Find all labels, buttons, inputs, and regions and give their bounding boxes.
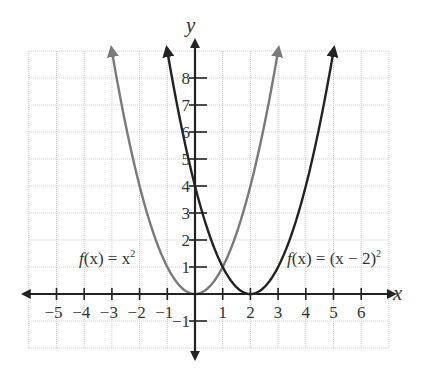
y-axis-label: y: [184, 13, 196, 37]
y-tick-label: 7: [182, 96, 191, 115]
x-tick-label: −4: [72, 303, 91, 322]
y-tick-label: 1: [182, 258, 191, 277]
label-f-x-squared: f(x) = x2: [79, 248, 135, 268]
x-axis-label: x: [392, 281, 403, 305]
x-tick-label: −3: [100, 303, 118, 322]
y-tick-label: 4: [182, 177, 191, 196]
chart: −5−4−3−2−1123456−112345678 x y f(x) = x2…: [0, 0, 425, 375]
y-tick-label: 8: [182, 69, 191, 88]
y-tick-label: 2: [182, 231, 191, 250]
x-tick-label: 1: [218, 303, 227, 322]
x-tick-label: −5: [44, 303, 62, 322]
x-tick-label: 3: [274, 303, 283, 322]
y-tick-label: 3: [182, 204, 191, 223]
x-tick-label: 4: [302, 303, 311, 322]
x-tick-label: 2: [246, 303, 255, 322]
x-tick-label: −1: [155, 303, 173, 322]
x-tick-label: 6: [357, 303, 366, 322]
label-f-x-minus-2-squared: f(x) = (x − 2)2: [287, 248, 381, 268]
x-tick-label: 5: [329, 303, 338, 322]
y-tick-label: 6: [182, 123, 191, 142]
x-tick-label: −2: [128, 303, 146, 322]
y-tick-label: −1: [172, 312, 190, 331]
y-tick-label: 5: [182, 150, 191, 169]
